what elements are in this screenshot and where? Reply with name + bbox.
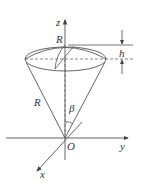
beta-angle-arc [65,122,73,124]
x-label: x [39,168,45,180]
height-label: h [119,47,125,59]
origin-label: O [67,140,75,152]
x-axis [37,122,82,171]
sphere-cap-arc [25,48,106,60]
cone-sphere-diagram: z R h R β O y x [0,0,141,190]
radius-side-label: R [33,96,41,108]
cap-section-curve [55,45,65,69]
cone-right-edge [65,62,105,138]
radius-line [55,46,74,69]
radius-top-label: R [55,33,63,45]
beta-label: β [68,102,75,114]
z-label: z [55,16,61,28]
cone-left-edge [26,62,65,138]
y-label: y [119,140,125,152]
